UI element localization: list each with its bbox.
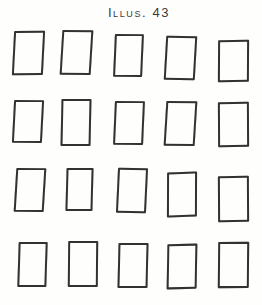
card-outline: [12, 100, 44, 143]
card-outline: [17, 242, 47, 287]
card-outline: [218, 176, 249, 222]
card-outline: [218, 242, 249, 288]
card-outline: [167, 172, 197, 218]
card-outline: [68, 241, 98, 287]
card-outline: [12, 31, 45, 75]
card-outline: [117, 243, 148, 288]
card-outline: [65, 168, 93, 211]
card-outline: [113, 34, 144, 77]
card-outline: [61, 99, 92, 146]
illustration-page: Illus. 43: [0, 0, 262, 305]
card-grid: [0, 0, 262, 305]
card-outline: [218, 40, 249, 83]
card-outline: [116, 168, 148, 214]
card-outline: [218, 102, 249, 148]
card-outline: [60, 30, 94, 75]
card-outline: [164, 36, 198, 80]
card-outline: [164, 101, 198, 146]
card-outline: [167, 244, 198, 290]
card-outline: [113, 101, 145, 145]
card-outline: [14, 168, 47, 212]
